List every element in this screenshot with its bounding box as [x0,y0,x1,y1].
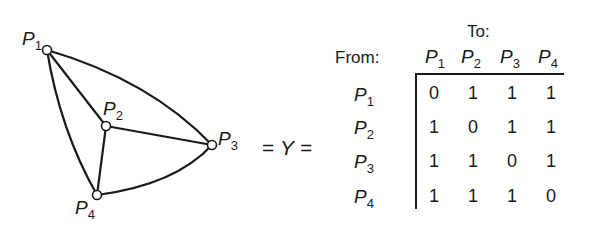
node-p3 [208,141,217,150]
column-header-p2: P2 [461,46,481,71]
matrix-cell: 0 [463,117,483,138]
row-header-p2: P2 [354,117,374,142]
matrix-left-rule [415,73,417,209]
node-p2 [102,122,111,131]
matrix-cell: 0 [424,83,444,104]
matrix-cell: 1 [541,117,561,138]
node-label-p2: P2 [103,98,123,123]
matrix-cell: 1 [502,83,522,104]
matrix-cell: 1 [424,186,444,207]
row-header-p4: P4 [354,186,374,211]
edge-p2-p4 [97,126,106,195]
row-header-p1: P1 [354,84,374,109]
from-label: From: [335,48,379,68]
column-header-p3: P3 [500,46,520,71]
column-header-p1: P1 [425,46,445,71]
matrix-cell: 1 [424,117,444,138]
equation: = Y = [262,136,312,160]
matrix-cell: 1 [463,186,483,207]
node-label-p1: P1 [22,28,42,53]
edge-p1-p4 [47,50,97,195]
matrix-cell: 0 [502,151,522,172]
matrix-top-rule [415,73,564,75]
matrix-cell: 1 [463,83,483,104]
matrix-cell: 1 [541,83,561,104]
node-label-p4: P4 [75,197,95,222]
edge-p3-p4 [97,145,212,195]
row-header-p3: P3 [354,151,374,176]
matrix-cell: 0 [541,186,561,207]
matrix-cell: 1 [424,151,444,172]
matrix-cell: 1 [463,151,483,172]
matrix-cell: 1 [502,186,522,207]
to-label: To: [467,22,490,42]
column-header-p4: P4 [538,46,558,71]
node-label-p3: P3 [218,128,238,153]
matrix-cell: 1 [502,117,522,138]
matrix-cell: 1 [541,151,561,172]
node-p1 [43,46,52,55]
matrix-symbol: Y [280,136,294,159]
